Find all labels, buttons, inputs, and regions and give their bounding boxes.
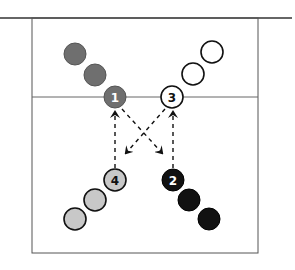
arrow-3-to-4 [126, 109, 165, 153]
drill-diagram: 1 3 4 2 [0, 0, 295, 270]
player-white-back [201, 41, 223, 63]
player-white-middle [182, 63, 204, 85]
player-light-gray-back [64, 208, 86, 230]
player-2-label: 2 [169, 174, 177, 188]
player-light-gray-middle [84, 189, 106, 211]
player-black-middle [178, 189, 200, 211]
player-3-label: 3 [168, 91, 176, 105]
player-4-label: 4 [111, 174, 119, 188]
player-dark-gray-back [64, 43, 86, 65]
player-dark-gray-middle [84, 64, 106, 86]
player-black-back [198, 208, 220, 230]
arrow-1-to-2 [122, 109, 162, 153]
player-1-label: 1 [111, 91, 119, 105]
